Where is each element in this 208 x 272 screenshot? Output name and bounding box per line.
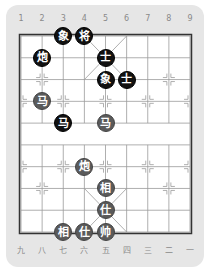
black-elephant-piece[interactable]: 象 xyxy=(97,71,115,89)
file-label-top: 7 xyxy=(141,14,155,23)
file-label-top: 6 xyxy=(120,14,134,23)
file-label-top: 9 xyxy=(183,14,197,23)
file-label-bottom: 六 xyxy=(77,244,91,255)
black-cannon-piece[interactable]: 炮 xyxy=(33,49,51,67)
file-label-top: 5 xyxy=(99,14,113,23)
file-label-bottom: 二 xyxy=(162,244,176,255)
red-king-piece[interactable]: 帅 xyxy=(97,223,115,241)
file-label-bottom: 八 xyxy=(35,244,49,255)
file-label-top: 2 xyxy=(35,14,49,23)
red-elephant-piece[interactable]: 相 xyxy=(97,179,115,197)
file-label-bottom: 三 xyxy=(141,244,155,255)
file-label-bottom: 一 xyxy=(183,244,197,255)
file-label-bottom: 五 xyxy=(99,244,113,255)
file-label-top: 4 xyxy=(77,14,91,23)
file-label-top: 1 xyxy=(14,14,28,23)
file-label-top: 3 xyxy=(56,14,70,23)
black-advisor-piece[interactable]: 士 xyxy=(118,71,136,89)
file-label-bottom: 九 xyxy=(14,244,28,255)
red-horse-piece[interactable]: 马 xyxy=(97,114,115,132)
red-advisor-piece[interactable]: 仕 xyxy=(97,201,115,219)
black-advisor-piece[interactable]: 士 xyxy=(97,49,115,67)
file-label-top: 8 xyxy=(162,14,176,23)
file-label-bottom: 七 xyxy=(56,244,70,255)
red-cannon-piece[interactable]: 炮 xyxy=(75,158,93,176)
file-label-bottom: 四 xyxy=(120,244,134,255)
